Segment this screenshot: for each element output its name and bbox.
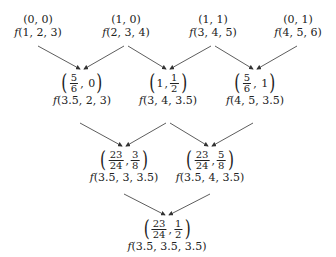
fraction: 58 — [217, 150, 225, 171]
node-coordinate: ( 1, 12 ) — [148, 72, 188, 94]
node-coordinate: (1, 1) — [189, 13, 237, 26]
edge-arrow — [126, 123, 166, 146]
node-coordinate: ( 2324 , 38 ) — [99, 149, 149, 171]
node-23-24-3-8: ( 2324 , 38 ) f(3.5, 3, 3.5) — [90, 149, 159, 184]
node-1-1-2: ( 1, 12 ) f(3, 4, 3.5) — [139, 72, 197, 107]
fraction: 56 — [243, 73, 251, 94]
edge-arrow — [128, 46, 166, 69]
fraction: 12 — [170, 73, 178, 94]
node-5-6-0: ( 56 , 0 ) f(3.5, 2, 3) — [53, 72, 111, 107]
node-23-24-1-2: ( 2324 , 12 ) f(3.5, 3.5, 3.5) — [127, 218, 206, 253]
node-coordinate: (0, 1) — [274, 13, 322, 26]
edge-arrow — [170, 123, 208, 146]
edge-arrow — [170, 46, 211, 69]
node-function: f(3.5, 3, 3.5) — [90, 171, 159, 184]
node-coordinate: ( 2324 , 58 ) — [185, 149, 235, 171]
node-5-6-1: ( 56 , 1 ) f(4, 5, 3.5) — [226, 72, 284, 107]
node-coordinate: (1, 0) — [102, 13, 150, 26]
node-coordinate: ( 56 , 0 ) — [60, 72, 104, 94]
node-0-1: (0, 1) f(4, 5, 6) — [274, 13, 322, 39]
node-function: f(3, 4, 3.5) — [139, 94, 197, 107]
node-function: f(4, 5, 3.5) — [226, 94, 284, 107]
node-coordinate: ( 2324 , 12 ) — [142, 218, 192, 240]
node-coordinate: ( 56 , 1 ) — [233, 72, 277, 94]
node-function: f(3.5, 2, 3) — [53, 94, 111, 107]
fraction: 2324 — [152, 219, 167, 240]
node-coordinate: (0, 0) — [14, 13, 62, 26]
edge-arrow — [169, 194, 210, 215]
edge-arrow — [257, 46, 297, 69]
edge-arrow — [212, 123, 253, 146]
node-1-1: (1, 1) f(3, 4, 5) — [189, 13, 237, 39]
node-function: f(2, 3, 4) — [102, 26, 150, 39]
fraction: 12 — [174, 219, 182, 240]
edge-arrow — [124, 194, 165, 215]
fraction: 56 — [70, 73, 78, 94]
node-0-0: (0, 0) f(1, 2, 3) — [14, 13, 62, 39]
node-function: f(3.5, 3.5, 3.5) — [127, 240, 206, 253]
node-1-0: (1, 0) f(2, 3, 4) — [102, 13, 150, 39]
node-function: f(1, 2, 3) — [14, 26, 62, 39]
edge-arrow — [38, 46, 80, 69]
node-function: f(4, 5, 6) — [274, 26, 322, 39]
edge-arrow — [215, 46, 253, 69]
fraction: 2324 — [195, 150, 210, 171]
edge-arrow — [80, 123, 122, 146]
node-function: f(3.5, 4, 3.5) — [176, 171, 245, 184]
node-function: f(3, 4, 5) — [189, 26, 237, 39]
fraction: 2324 — [109, 150, 124, 171]
node-23-24-5-8: ( 2324 , 58 ) f(3.5, 4, 3.5) — [176, 149, 245, 184]
edge-arrow — [84, 46, 124, 69]
fraction: 38 — [131, 150, 139, 171]
